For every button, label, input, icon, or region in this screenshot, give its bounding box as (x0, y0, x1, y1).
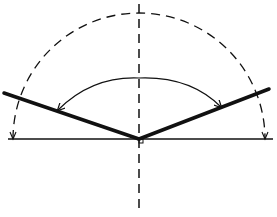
angle-arc-right (139, 78, 221, 107)
left-thick-line (4, 93, 139, 139)
dashed-semicircle (13, 13, 265, 139)
diagram-canvas (0, 0, 277, 217)
angle-arc (58, 78, 139, 110)
right-thick-line (139, 89, 269, 139)
